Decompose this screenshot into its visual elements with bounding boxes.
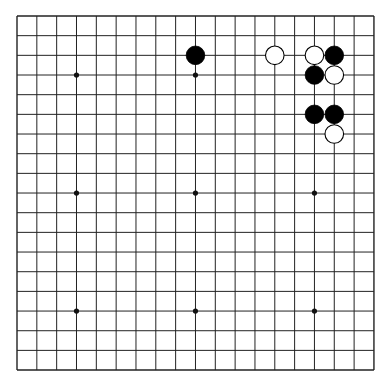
star-point <box>312 190 317 195</box>
white-stone[interactable] <box>265 46 284 65</box>
black-stone[interactable] <box>305 66 324 85</box>
star-point <box>74 190 79 195</box>
star-point <box>193 190 198 195</box>
star-point <box>74 72 79 77</box>
star-point <box>74 308 79 313</box>
go-board[interactable] <box>0 0 392 389</box>
star-point <box>312 308 317 313</box>
white-stone[interactable] <box>305 46 324 65</box>
black-stone[interactable] <box>305 105 324 124</box>
black-stone[interactable] <box>186 46 205 65</box>
white-stone[interactable] <box>325 66 344 85</box>
white-stone[interactable] <box>325 125 344 144</box>
star-point <box>193 308 198 313</box>
black-stone[interactable] <box>325 105 344 124</box>
black-stone[interactable] <box>325 46 344 65</box>
star-point <box>193 72 198 77</box>
